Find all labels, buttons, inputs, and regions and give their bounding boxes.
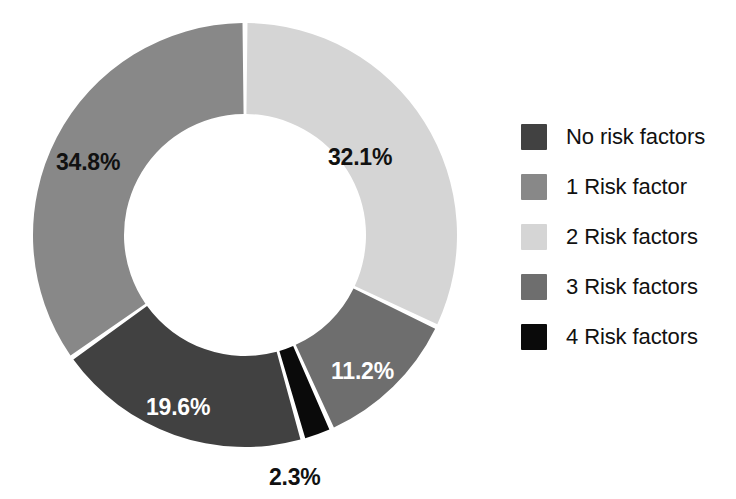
legend-item-label: 1 Risk factor	[566, 174, 687, 200]
chart-legend: No risk factors1 Risk factor2 Risk facto…	[521, 112, 726, 362]
slice-label-2-risk-factors: 32.1%	[328, 146, 392, 169]
legend-item-label: 3 Risk factors	[566, 274, 698, 300]
legend-swatch-icon	[521, 174, 547, 200]
legend-swatch-icon	[521, 274, 547, 300]
donut-slice[interactable]	[33, 23, 244, 355]
legend-item-label: 2 Risk factors	[566, 224, 698, 250]
legend-swatch-icon	[521, 324, 547, 350]
slice-label-4-risk-factors: 2.3%	[269, 466, 321, 489]
legend-swatch-icon	[521, 224, 547, 250]
legend-item-label: 4 Risk factors	[566, 324, 698, 350]
legend-item[interactable]: 4 Risk factors	[521, 312, 726, 362]
donut-chart-svg	[18, 8, 472, 462]
legend-item[interactable]: 1 Risk factor	[521, 162, 726, 212]
legend-swatch-icon	[521, 124, 547, 150]
slice-label-1-risk-factor: 34.8%	[56, 151, 120, 174]
donut-chart: 32.1% 11.2% 2.3% 19.6% 34.8%	[18, 8, 472, 462]
donut-slice[interactable]	[246, 23, 457, 324]
slice-label-3-risk-factors: 11.2%	[331, 360, 394, 383]
legend-item[interactable]: No risk factors	[521, 112, 726, 162]
legend-item[interactable]: 3 Risk factors	[521, 262, 726, 312]
legend-item[interactable]: 2 Risk factors	[521, 212, 726, 262]
slice-label-no-risk-factors: 19.6%	[146, 396, 210, 419]
donut-chart-figure: 32.1% 11.2% 2.3% 19.6% 34.8% No risk fac…	[0, 0, 736, 499]
legend-item-label: No risk factors	[566, 124, 705, 150]
